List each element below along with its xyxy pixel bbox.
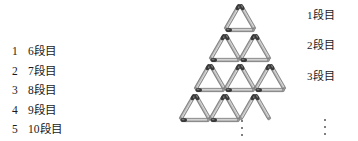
matchstick bbox=[225, 28, 254, 32]
matchstick bbox=[208, 33, 226, 60]
pyramid-row-3 bbox=[193, 63, 286, 92]
dot bbox=[324, 133, 326, 135]
matchstick bbox=[225, 88, 254, 92]
matchstick bbox=[223, 33, 241, 60]
row-label-2: 2段目 bbox=[307, 36, 335, 52]
matchstick bbox=[238, 93, 256, 120]
dot bbox=[324, 126, 326, 128]
matchstick bbox=[178, 93, 196, 120]
matchstick bbox=[238, 3, 256, 30]
row-label-3: 3段目 bbox=[307, 67, 335, 83]
matchstick bbox=[208, 93, 226, 120]
matchstick bbox=[238, 33, 256, 60]
matchstick bbox=[253, 33, 271, 60]
matchstick bbox=[195, 88, 224, 92]
pyramid-row-2 bbox=[208, 33, 271, 62]
pyramid-rows bbox=[178, 3, 286, 122]
matchstick bbox=[253, 63, 271, 90]
matchstick bbox=[223, 93, 241, 120]
matchstick bbox=[253, 93, 271, 120]
matchstick bbox=[193, 93, 211, 120]
pyramid-row-1 bbox=[223, 3, 256, 32]
matchstick bbox=[238, 63, 256, 90]
bottom-ellipsis-icon bbox=[241, 120, 245, 136]
matchstick bbox=[268, 63, 286, 90]
row-label-1: 1段目 bbox=[307, 6, 335, 22]
matchstick bbox=[210, 118, 239, 122]
matchstick bbox=[210, 58, 239, 62]
matchstick bbox=[240, 58, 269, 62]
matchstick bbox=[208, 63, 226, 90]
matchstick-pyramid-figure bbox=[0, 0, 358, 141]
dot bbox=[241, 120, 243, 122]
dot bbox=[241, 134, 243, 136]
matchstick bbox=[223, 3, 241, 30]
matchstick bbox=[223, 63, 241, 90]
dot bbox=[241, 127, 243, 129]
matchstick bbox=[193, 63, 211, 90]
right-ellipsis-icon bbox=[324, 119, 328, 135]
pyramid-row-4 bbox=[178, 93, 271, 122]
matchstick bbox=[180, 118, 209, 122]
dot bbox=[324, 119, 326, 121]
matchstick bbox=[255, 88, 284, 92]
